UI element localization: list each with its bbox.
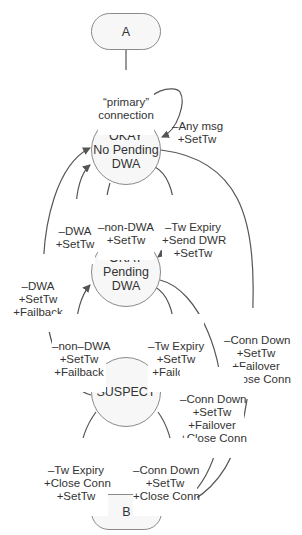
node-label-line: DWA (103, 279, 149, 293)
label-suspect-to-pending: –non–DWA+SetTw+Failback (52, 314, 106, 392)
node-label-line: Pending (103, 265, 149, 279)
node-a-label: A (122, 25, 130, 39)
node-a: A (91, 13, 161, 50)
label-nopending-to-pending-nondwa: –non-DWA+SetTw (98, 195, 154, 260)
node-label-line: No Pending (93, 143, 158, 157)
node-label-line: DWA (93, 157, 158, 171)
label-suspect-to-b-expiry: –Tw Expiry+Close Conn+SetTw (44, 438, 108, 516)
node-b-label: B (122, 505, 130, 519)
label-self-loop: –Any msg+SetTw (172, 94, 222, 159)
label-a-to-okay: “primary”connection (98, 70, 154, 135)
label-suspect-to-b-conndown: –Conn Down+SetTw+Close Conn (133, 438, 197, 516)
label-nopending-to-pending-expiry: –Tw Expiry+Send DWR+SetTw (162, 195, 224, 273)
